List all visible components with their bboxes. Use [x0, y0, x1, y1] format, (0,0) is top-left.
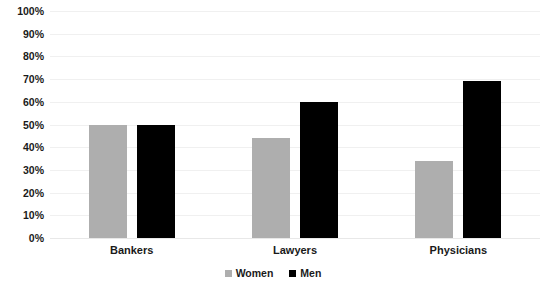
- legend-swatch-icon: [225, 270, 232, 277]
- legend-item-men: Men: [289, 268, 321, 279]
- x-axis-tick-label: Physicians: [430, 243, 487, 257]
- gridline: [50, 11, 540, 12]
- legend-item-women: Women: [225, 268, 274, 279]
- y-axis-labels: 100%90%80%70%60%50%40%30%20%10%0%: [0, 0, 44, 291]
- bar-physicians-women: [415, 161, 453, 238]
- y-axis-tick-label: 100%: [0, 6, 44, 17]
- gridline: [50, 56, 540, 57]
- bar-lawyers-women: [252, 138, 290, 238]
- x-axis-tick-label: Lawyers: [273, 243, 317, 257]
- y-axis-tick-label: 90%: [0, 28, 44, 39]
- plot-area: [50, 11, 540, 238]
- y-axis-tick-label: 0%: [0, 233, 44, 244]
- bar-lawyers-men: [300, 102, 338, 238]
- legend: WomenMen: [0, 268, 546, 279]
- legend-swatch-icon: [289, 270, 296, 277]
- axis-baseline: [50, 238, 540, 239]
- y-axis-tick-label: 80%: [0, 51, 44, 62]
- gridline: [50, 34, 540, 35]
- bar-bankers-men: [137, 125, 175, 239]
- gridline: [50, 79, 540, 80]
- y-axis-tick-label: 70%: [0, 74, 44, 85]
- legend-label: Men: [300, 268, 321, 279]
- legend-label: Women: [236, 268, 274, 279]
- bar-chart: 100%90%80%70%60%50%40%30%20%10%0% Banker…: [0, 0, 546, 291]
- bar-bankers-women: [89, 125, 127, 239]
- y-axis-tick-label: 60%: [0, 97, 44, 108]
- y-axis-tick-label: 40%: [0, 142, 44, 153]
- x-axis-category-labels: BankersLawyersPhysicians: [50, 243, 540, 261]
- x-axis-tick-label: Bankers: [110, 243, 153, 257]
- y-axis-tick-label: 50%: [0, 119, 44, 130]
- y-axis-tick-label: 20%: [0, 187, 44, 198]
- bar-physicians-men: [463, 81, 501, 238]
- y-axis-tick-label: 10%: [0, 210, 44, 221]
- y-axis-tick-label: 30%: [0, 165, 44, 176]
